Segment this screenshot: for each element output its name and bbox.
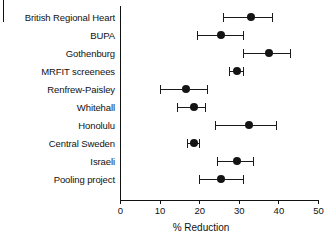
x-tick-10 bbox=[160, 200, 161, 204]
point-estimate-marker bbox=[217, 31, 225, 39]
x-tick-label-20: 20 bbox=[194, 205, 205, 216]
confidence-interval-cap-lower bbox=[229, 67, 230, 76]
x-axis-line bbox=[120, 200, 318, 201]
confidence-interval-cap-upper bbox=[276, 121, 277, 130]
confidence-interval-cap-upper bbox=[253, 157, 254, 166]
confidence-interval-cap-lower bbox=[160, 85, 161, 94]
x-tick-0 bbox=[120, 200, 121, 204]
point-estimate-marker bbox=[217, 175, 225, 183]
point-estimate-marker bbox=[190, 103, 198, 111]
forest-row bbox=[0, 27, 336, 45]
confidence-interval-cap-lower bbox=[243, 49, 244, 58]
forest-row bbox=[0, 63, 336, 81]
point-estimate-marker bbox=[233, 157, 241, 165]
x-tick-label-30: 30 bbox=[234, 205, 245, 216]
confidence-interval-cap-upper bbox=[243, 31, 244, 40]
x-tick-50 bbox=[318, 200, 319, 204]
confidence-interval-cap-upper bbox=[205, 103, 206, 112]
x-tick-label-50: 50 bbox=[313, 205, 324, 216]
confidence-interval-cap-lower bbox=[215, 121, 216, 130]
point-estimate-marker bbox=[245, 121, 253, 129]
confidence-interval-cap-upper bbox=[199, 139, 200, 148]
confidence-interval-cap-upper bbox=[207, 85, 208, 94]
confidence-interval-cap-upper bbox=[243, 67, 244, 76]
point-estimate-marker bbox=[265, 49, 273, 57]
forest-plot-figure: British Regional HeartBUPAGothenburgMRFI… bbox=[0, 0, 336, 247]
point-estimate-marker bbox=[182, 85, 190, 93]
point-estimate-marker bbox=[190, 139, 198, 147]
confidence-interval-cap-upper bbox=[243, 175, 244, 184]
x-tick-20 bbox=[199, 200, 200, 204]
x-tick-30 bbox=[239, 200, 240, 204]
point-estimate-marker bbox=[233, 67, 241, 75]
confidence-interval-cap-upper bbox=[290, 49, 291, 58]
x-axis-title: % Reduction bbox=[0, 222, 336, 233]
confidence-interval-cap-lower bbox=[217, 157, 218, 166]
point-estimate-marker bbox=[247, 13, 255, 21]
forest-row bbox=[0, 45, 336, 63]
forest-row bbox=[0, 135, 336, 153]
forest-row bbox=[0, 171, 336, 189]
forest-row bbox=[0, 81, 336, 99]
plot-area: 01020304050 bbox=[0, 0, 336, 247]
confidence-interval-cap-lower bbox=[199, 175, 200, 184]
confidence-interval-cap-lower bbox=[197, 31, 198, 40]
x-tick-label-40: 40 bbox=[274, 205, 285, 216]
forest-row bbox=[0, 9, 336, 27]
x-tick-40 bbox=[278, 200, 279, 204]
x-axis-title-text: % Reduction bbox=[107, 222, 230, 233]
confidence-interval-cap-lower bbox=[177, 103, 178, 112]
confidence-interval-cap-lower bbox=[187, 139, 188, 148]
confidence-interval-cap-lower bbox=[223, 13, 224, 22]
x-tick-label-10: 10 bbox=[155, 205, 166, 216]
x-tick-label-0: 0 bbox=[118, 205, 123, 216]
forest-row bbox=[0, 153, 336, 171]
forest-row bbox=[0, 99, 336, 117]
forest-row bbox=[0, 117, 336, 135]
confidence-interval-cap-upper bbox=[272, 13, 273, 22]
